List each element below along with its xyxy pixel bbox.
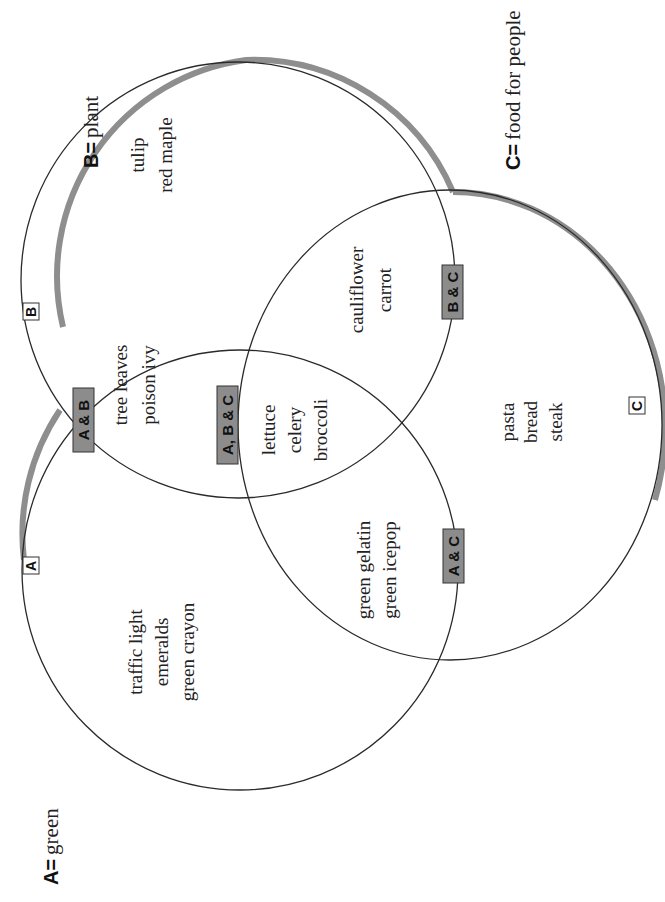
region-ac: green gelatin green icepop <box>353 520 400 619</box>
svg-text:A & C: A & C <box>445 536 462 576</box>
circle-label-c: C <box>629 397 645 414</box>
region-item: lettuce <box>258 405 279 456</box>
tag-ac: A & C <box>443 529 464 583</box>
legend-c: C=food for people <box>501 10 525 170</box>
region-b-only: tulip red maple <box>127 117 176 192</box>
region-item: green crayon <box>177 602 198 701</box>
region-item: celery <box>284 406 305 453</box>
legend-c-text: food for people <box>501 10 525 139</box>
region-item: tulip <box>127 138 148 173</box>
svg-text:A: A <box>23 561 39 571</box>
svg-text:A, B & C: A, B & C <box>219 395 236 455</box>
circle-c-shadow <box>453 192 665 500</box>
legend-b-text: plant <box>79 96 103 138</box>
region-item: red maple <box>155 117 176 192</box>
region-item: bread <box>520 400 541 443</box>
region-item: cauliflower <box>346 246 367 333</box>
region-item: broccoli <box>310 399 331 461</box>
tag-bc: B & C <box>442 265 463 319</box>
region-ab: tree leaves poison ivy <box>110 345 159 426</box>
legend-b: B=plant <box>79 96 103 168</box>
legend-a-text: green <box>39 808 63 855</box>
svg-text:A & B: A & B <box>75 400 92 440</box>
region-abc: lettuce celery broccoli <box>258 399 331 461</box>
legend-c-key: C= <box>502 144 524 170</box>
region-bc: cauliflower carrot <box>346 246 395 333</box>
svg-text:C: C <box>629 401 645 411</box>
svg-text:B=plant: B=plant <box>79 96 103 168</box>
circle-label-a: A <box>23 557 39 574</box>
circle-label-b: B <box>23 303 39 320</box>
tag-ab: A & B <box>73 388 94 452</box>
tag-abc: A, B & C <box>217 386 238 464</box>
svg-text:A=green: A=green <box>39 808 63 885</box>
region-item: pasta <box>497 402 518 442</box>
legend-b-key: B= <box>80 142 102 168</box>
svg-text:B: B <box>23 307 39 317</box>
region-item: traffic light <box>125 608 146 694</box>
legend-a-key: A= <box>40 859 62 885</box>
svg-text:C=food for people: C=food for people <box>501 10 525 170</box>
region-item: emeralds <box>151 618 172 687</box>
circle-a-shadow <box>22 410 60 560</box>
legend-a: A=green <box>39 808 63 885</box>
venn-diagram: A=green B=plant C=food for people A B C … <box>0 0 665 902</box>
region-item: steak <box>545 402 566 442</box>
region-item: tree leaves <box>110 345 131 426</box>
region-item: green gelatin <box>353 520 374 619</box>
region-a-only: traffic light emeralds green crayon <box>125 602 198 701</box>
region-item: poison ivy <box>138 345 159 425</box>
region-item: green icepop <box>379 521 400 619</box>
region-item: carrot <box>374 267 395 312</box>
region-c-only: pasta bread steak <box>497 400 566 443</box>
svg-text:B & C: B & C <box>444 271 461 312</box>
